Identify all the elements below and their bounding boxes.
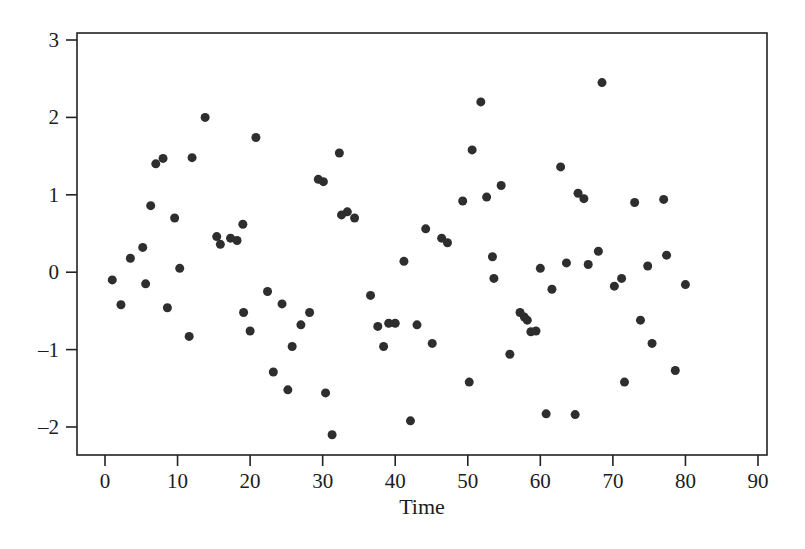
data-point [175,264,184,273]
x-tick-label: 50 [457,471,478,492]
data-point [288,342,297,351]
data-point [216,240,225,249]
data-point [443,238,452,247]
data-point [505,350,514,359]
x-tick-label: 30 [312,471,333,492]
data-point [594,247,603,256]
data-point [681,280,690,289]
data-point [428,339,437,348]
axis-frame [77,33,767,455]
data-point [648,339,657,348]
data-point [620,378,629,387]
data-point [239,308,248,317]
data-point [497,181,506,190]
data-point [617,274,626,283]
y-tick-label: 3 [49,30,60,51]
data-point-group [108,78,690,439]
data-point [488,252,497,261]
data-point [159,154,168,163]
data-point [571,410,580,419]
data-point [246,327,255,336]
data-point [263,287,272,296]
data-point [531,327,540,336]
x-tick-label: 60 [530,471,551,492]
data-point [584,260,593,269]
data-point [579,194,588,203]
data-point [556,162,565,171]
data-point [379,342,388,351]
data-point [542,409,551,418]
data-point [547,285,556,294]
data-point [151,159,160,168]
data-point [610,282,619,291]
data-point [523,316,532,325]
data-point [659,195,668,204]
data-point [138,243,147,252]
x-axis-title: Time [399,494,445,520]
data-point [238,220,247,229]
y-tick-label: –2 [38,417,59,438]
y-axis-ticks [66,40,77,427]
data-point [201,113,210,122]
data-point [251,133,260,142]
data-point [458,196,467,205]
data-point [141,279,150,288]
data-point [170,214,179,223]
y-tick-label: 1 [49,184,60,205]
data-point [421,224,430,233]
data-point [146,201,155,210]
data-point [283,385,292,394]
y-tick-label: –1 [38,339,59,360]
data-point [476,97,485,106]
data-point [366,291,375,300]
data-point [116,300,125,309]
x-tick-label: 40 [385,471,406,492]
data-point [662,251,671,260]
x-axis-ticks [105,455,758,466]
data-point [643,262,652,271]
data-point [598,78,607,87]
data-point [482,193,491,202]
data-point [188,153,197,162]
data-point [163,303,172,312]
scatter-plot-figure: –2–10123 0102030405060708090 Time [0,0,805,549]
data-point [335,149,344,158]
data-point [373,322,382,331]
data-point [489,274,498,283]
data-point [636,316,645,325]
data-point [269,368,278,377]
x-tick-label: 20 [240,471,261,492]
data-point [391,319,400,328]
y-tick-label: 0 [49,262,60,283]
data-point [319,177,328,186]
data-point [671,366,680,375]
data-point [406,416,415,425]
data-point [350,214,359,223]
data-point [630,198,639,207]
x-tick-label: 70 [602,471,623,492]
data-point [328,430,337,439]
y-tick-label: 2 [49,107,60,128]
x-tick-label: 80 [675,471,696,492]
data-point [321,388,330,397]
x-tick-label: 10 [167,471,188,492]
data-point [412,320,421,329]
plot-canvas [0,0,805,549]
data-point [296,320,305,329]
x-tick-label: 0 [100,471,111,492]
x-tick-label: 90 [748,471,769,492]
plot-border [77,33,767,455]
data-point [212,232,221,241]
data-point [278,299,287,308]
data-point [343,207,352,216]
data-point [465,378,474,387]
data-point [108,275,117,284]
data-point [468,145,477,154]
data-point [536,264,545,273]
data-point [399,257,408,266]
data-point [185,332,194,341]
data-point [126,254,135,263]
data-point [305,308,314,317]
data-point [562,258,571,267]
data-point [233,236,242,245]
